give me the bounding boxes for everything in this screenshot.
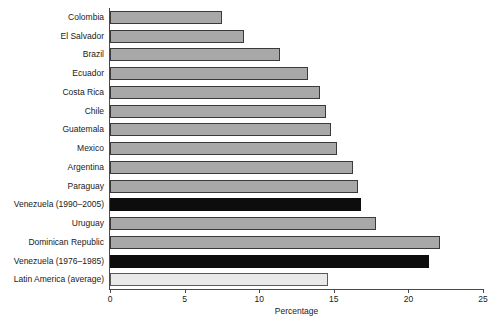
category-axis-labels: ColombiaEl SalvadorBrazilEcuadorCosta Ri… (0, 8, 104, 289)
category-label: Argentina (0, 158, 104, 177)
bar (110, 11, 222, 24)
bar (110, 123, 331, 136)
category-label: Venezuela (1976–1985) (0, 252, 104, 271)
category-label: Dominican Republic (0, 233, 104, 252)
bar-row (110, 252, 483, 271)
category-label: Guatemala (0, 120, 104, 139)
bar-row (110, 27, 483, 46)
bar-row (110, 214, 483, 233)
category-label: Brazil (0, 45, 104, 64)
category-label: Paraguay (0, 177, 104, 196)
bar (110, 217, 376, 230)
x-tick-label: 5 (182, 294, 187, 304)
category-label: Ecuador (0, 64, 104, 83)
bar-row (110, 195, 483, 214)
x-tick-label: 15 (329, 294, 338, 304)
x-tick-label: 25 (478, 294, 487, 304)
bar-row (110, 233, 483, 252)
x-axis-title: Percentage (110, 306, 483, 316)
bar (110, 255, 429, 268)
x-tick-mark (408, 290, 409, 293)
bar (110, 142, 337, 155)
bar-row (110, 270, 483, 289)
bar (110, 67, 308, 80)
bar (110, 161, 353, 174)
bar-row (110, 177, 483, 196)
x-tick-label: 10 (254, 294, 263, 304)
bar (110, 236, 440, 249)
x-tick-mark (259, 290, 260, 293)
category-label: Uruguay (0, 214, 104, 233)
x-tick-mark (334, 290, 335, 293)
bar (110, 105, 326, 118)
bar (110, 273, 328, 286)
category-label: Latin America (average) (0, 270, 104, 289)
bar (110, 198, 361, 211)
x-tick-mark (185, 290, 186, 293)
bar-row (110, 139, 483, 158)
bar-row (110, 8, 483, 27)
bar-row (110, 83, 483, 102)
bar (110, 30, 244, 43)
category-label: Chile (0, 102, 104, 121)
x-tick-label: 0 (108, 294, 113, 304)
bar-row (110, 45, 483, 64)
x-tick-mark (483, 290, 484, 293)
bar (110, 86, 320, 99)
bar-series (110, 8, 483, 289)
bar-row (110, 120, 483, 139)
plot-area (110, 8, 483, 289)
bar-row (110, 102, 483, 121)
bar-chart: ColombiaEl SalvadorBrazilEcuadorCosta Ri… (0, 0, 500, 330)
category-label: Costa Rica (0, 83, 104, 102)
bar-row (110, 64, 483, 83)
bar (110, 180, 358, 193)
category-label: El Salvador (0, 27, 104, 46)
category-label: Mexico (0, 139, 104, 158)
category-label: Venezuela (1990–2005) (0, 195, 104, 214)
bar (110, 48, 280, 61)
category-label: Colombia (0, 8, 104, 27)
x-tick-label: 20 (404, 294, 413, 304)
bar-row (110, 158, 483, 177)
x-tick-mark (110, 290, 111, 293)
